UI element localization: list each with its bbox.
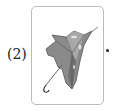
item-number-label: (2) xyxy=(7,46,27,62)
image-card xyxy=(31,6,104,105)
umbrella-icon xyxy=(32,7,105,106)
trailing-period xyxy=(106,49,109,52)
